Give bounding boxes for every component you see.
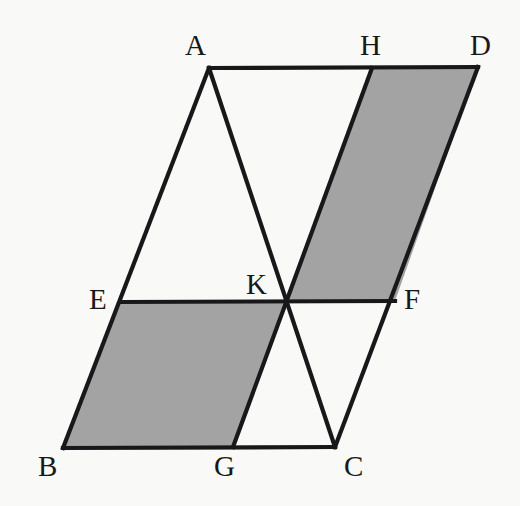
figure-canvas (0, 0, 520, 506)
vertex-label-f: F (404, 285, 420, 314)
vertex-label-k: K (246, 270, 267, 299)
region-ebgk (63, 302, 284, 448)
segment-cb (63, 447, 335, 448)
segment-ad (209, 67, 478, 68)
geometry-figure: AHDEKFBGC (0, 0, 520, 506)
vertex-label-c: C (344, 452, 363, 481)
vertex-label-g: G (214, 452, 235, 481)
vertex-label-h: H (360, 31, 381, 60)
vertex-label-e: E (89, 285, 107, 314)
segment-ef (121, 301, 395, 302)
vertex-label-d: D (470, 31, 491, 60)
vertex-label-a: A (185, 31, 206, 60)
vertex-label-b: B (38, 452, 57, 481)
region-khdf (284, 67, 478, 302)
